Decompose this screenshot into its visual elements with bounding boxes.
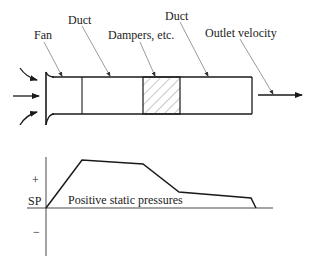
fan-label: Fan (34, 28, 52, 42)
fan-duct-diagram: Fan Duct Dampers, etc. Duct Outlet veloc… (0, 0, 312, 267)
minus-sign: − (33, 225, 40, 239)
fan-shape (46, 72, 54, 125)
duct-label-1: Duct (68, 13, 92, 27)
inlet-arrow-top-icon (20, 68, 37, 80)
sp-axis-label: SP (28, 194, 42, 208)
inlet-arrows (13, 68, 39, 125)
duct-label-2: Duct (165, 9, 189, 23)
outlet-velocity-label: Outlet velocity (205, 26, 277, 40)
positive-pressure-label: Positive static pressures (68, 193, 183, 207)
plus-sign: + (32, 173, 39, 187)
duct-body (52, 77, 252, 114)
inlet-arrow-bottom-icon (20, 112, 37, 125)
damper-hatched-section (143, 77, 180, 114)
dampers-label: Dampers, etc. (108, 28, 174, 42)
